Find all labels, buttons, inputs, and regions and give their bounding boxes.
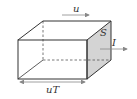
length-label: uT	[46, 84, 60, 95]
area-label: S	[100, 27, 107, 38]
hidden-edge-depth	[18, 60, 43, 79]
velocity-label: u	[73, 3, 79, 14]
cross-section-face	[87, 21, 111, 79]
current-label: I	[111, 37, 117, 48]
top-edge-left	[18, 21, 43, 40]
cuboid-diagram: u S I uT	[0, 0, 137, 99]
front-face	[18, 40, 87, 79]
